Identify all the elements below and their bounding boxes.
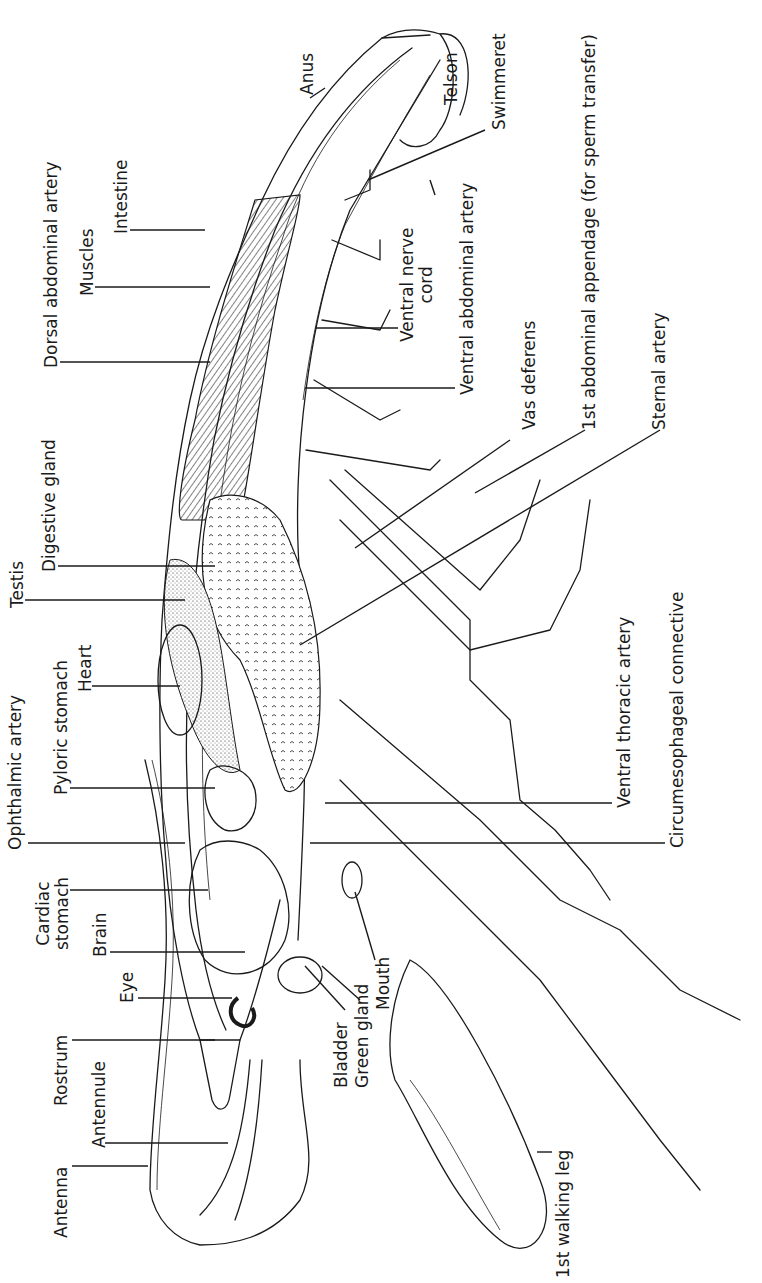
label-telson: Telson — [442, 52, 461, 105]
label-first-walking-leg: 1st walking leg — [554, 1150, 573, 1278]
label-dorsal-abdominal-artery: Dorsal abdominal artery — [42, 162, 61, 368]
label-ventral-nerve-cord: Ventral nerve cord — [398, 228, 436, 342]
label-ventral-nerve-cord-line1: Ventral nerve — [398, 228, 417, 342]
label-intestine: Intestine — [112, 160, 131, 234]
first-walking-leg-claw — [390, 960, 546, 1248]
label-testis: Testis — [8, 561, 27, 608]
pyloric-stomach — [205, 766, 256, 831]
label-ophthalmic-artery: Ophthalmic artery — [6, 695, 25, 850]
label-muscles: Muscles — [78, 228, 97, 296]
label-brain: Brain — [91, 912, 110, 957]
label-rostrum: Rostrum — [52, 1035, 71, 1106]
label-cardiac-stomach: Cardiac stomach — [34, 877, 72, 950]
label-bladder: Bladder — [332, 1022, 351, 1088]
label-antenna: Antenna — [52, 1167, 71, 1239]
label-swimmeret: Swimmeret — [490, 33, 509, 130]
label-green-gland: Green gland — [353, 984, 372, 1088]
label-digestive-gland: Digestive gland — [40, 439, 59, 572]
cardiac-stomach — [189, 841, 289, 974]
leader-lines — [25, 88, 665, 1166]
label-ventral-abdominal-artery: Ventral abdominal artery — [458, 183, 477, 395]
label-anus: Anus — [298, 53, 317, 95]
label-cardiac-stomach-line2: stomach — [53, 877, 72, 950]
eye — [231, 998, 254, 1026]
label-eye: Eye — [118, 972, 137, 1003]
label-circumesophageal-connective: Circumesophageal connective — [668, 592, 687, 848]
label-mouth: Mouth — [374, 957, 393, 1010]
label-cardiac-stomach-line1: Cardiac — [34, 877, 53, 950]
label-first-abdominal-appendage: 1st abdominal appendage (for sperm trans… — [580, 34, 599, 430]
label-ventral-thoracic-artery: Ventral thoracic artery — [615, 617, 634, 808]
mouth-opening — [342, 862, 362, 898]
muscles — [179, 195, 300, 520]
antennae — [145, 760, 309, 1245]
label-pyloric-stomach: Pyloric stomach — [52, 660, 71, 795]
label-heart: Heart — [76, 645, 95, 692]
label-ventral-nerve-cord-line2: cord — [417, 228, 436, 342]
label-sternal-artery: Sternal artery — [650, 312, 669, 430]
green-gland — [278, 957, 322, 993]
label-vas-deferens: Vas deferens — [520, 321, 539, 430]
label-antennule: Antennule — [90, 1061, 109, 1148]
lobster-anatomy-diagram: Anus Telson Swimmeret Dorsal abdominal a… — [0, 0, 762, 1283]
